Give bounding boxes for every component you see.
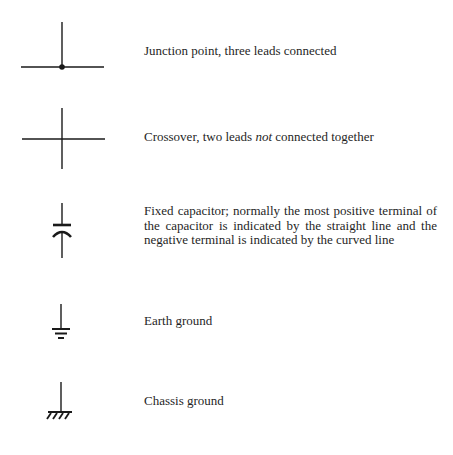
chassis-ground-icon (47, 382, 72, 419)
crossover-description: Crossover, two leads not connected toget… (144, 130, 374, 145)
earth-ground-icon (52, 304, 70, 338)
crossover-label-post: connected together (272, 129, 374, 144)
crossover-label-emphasis: not (255, 129, 272, 144)
crossover-icon (22, 108, 105, 169)
chassis-ground-description: Chassis ground (144, 394, 224, 409)
fixed-capacitor-description: Fixed capacitor; normally the most posit… (144, 204, 437, 248)
junction-point-label: Junction point, three leads connected (144, 43, 336, 58)
crossover-label-pre: Crossover, two leads (144, 129, 255, 144)
fixed-capacitor-icon (53, 203, 71, 258)
earth-ground-description: Earth ground (144, 314, 212, 329)
junction-point-description: Junction point, three leads connected (144, 44, 336, 59)
junction-point-icon (21, 22, 104, 70)
